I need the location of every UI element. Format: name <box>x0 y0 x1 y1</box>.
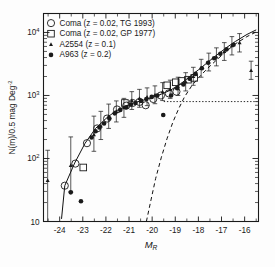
data-point <box>89 135 94 140</box>
x-tick-label: -20 <box>146 226 158 235</box>
data-point <box>187 76 192 81</box>
legend-marker-2 <box>49 42 53 46</box>
legend: Coma (z = 0.02, TG 1993)Coma (z = 0.02, … <box>47 19 155 60</box>
data-point <box>200 66 205 71</box>
data-point <box>175 86 180 91</box>
data-point <box>68 190 73 195</box>
data-point <box>97 125 102 130</box>
data-point <box>142 102 149 109</box>
data-point <box>80 164 87 171</box>
data-point <box>249 68 253 72</box>
series-2 <box>45 34 253 222</box>
figure-container: -24-23-22-21-20-19-18-17-1610102103104MR… <box>0 0 275 267</box>
data-point <box>224 47 229 52</box>
data-point <box>169 93 174 98</box>
luminosity-function-plot: -24-23-22-21-20-19-18-17-1610102103104MR… <box>0 0 275 267</box>
legend-label-1: Coma (z = 0.02, GP 1977) <box>60 29 156 38</box>
y-tick-label: 103 <box>27 90 39 100</box>
y-tick-label: 104 <box>27 27 40 37</box>
data-point <box>144 97 149 102</box>
legend-label-2: A2554 (z = 0.1) <box>60 40 116 49</box>
x-tick-label: -22 <box>100 226 112 235</box>
y-tick-label: 10 <box>30 218 40 227</box>
legend-marker-1 <box>48 30 55 37</box>
data-point <box>133 101 138 106</box>
data-point <box>129 102 134 107</box>
data-point <box>161 113 166 118</box>
data-point <box>212 56 217 61</box>
data-point <box>164 82 171 89</box>
legend-marker-0 <box>47 20 54 27</box>
data-point <box>149 95 154 100</box>
data-point <box>46 178 50 182</box>
x-tick-label: -21 <box>123 226 135 235</box>
data-point <box>112 111 117 116</box>
data-point <box>93 129 98 134</box>
y-axis-title: N(m)/0.5 mag Deg-2 <box>7 80 17 154</box>
x-tick-label: -18 <box>192 226 204 235</box>
series-0 <box>61 88 180 189</box>
legend-marker-3 <box>49 53 54 58</box>
data-point <box>107 116 112 121</box>
legend-label-3: A963 (z = 0.2) <box>60 50 112 59</box>
data-point <box>139 99 144 104</box>
data-point <box>231 42 236 47</box>
data-point <box>79 199 84 204</box>
data-point <box>155 93 160 98</box>
x-tick-label: -19 <box>169 226 181 235</box>
x-tick-label: -23 <box>77 226 89 235</box>
x-tick-label: -24 <box>54 226 66 235</box>
data-point <box>118 108 123 113</box>
data-point <box>124 105 129 110</box>
data-point <box>181 82 186 87</box>
data-point <box>238 41 242 45</box>
x-axis-title: MR <box>145 239 158 252</box>
data-point <box>193 72 198 77</box>
data-point <box>218 51 223 56</box>
legend-label-0: Coma (z = 0.02, TG 1993) <box>60 19 155 28</box>
data-point <box>102 121 107 126</box>
x-tick-label: -17 <box>216 226 228 235</box>
x-tick-label: -16 <box>239 226 251 235</box>
data-point <box>206 61 211 66</box>
y-tick-label: 102 <box>27 153 39 163</box>
